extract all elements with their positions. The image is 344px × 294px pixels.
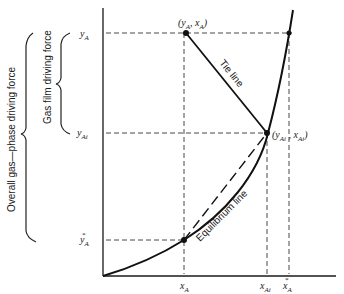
curve-yA-point bbox=[287, 31, 292, 36]
y-label-yA-star: yA* bbox=[79, 231, 89, 248]
horizontal-guides bbox=[106, 33, 292, 240]
x-label-xA: xA bbox=[179, 280, 189, 294]
bulk-point-label: (yA, xA) bbox=[178, 17, 208, 31]
overall-label: Overall gas—phase driving force bbox=[6, 66, 17, 212]
equilibrium-point bbox=[181, 237, 187, 243]
interface-point bbox=[264, 130, 270, 136]
x-label-xA-star: xA* bbox=[282, 276, 292, 294]
x-label-xAi: xAi bbox=[259, 280, 271, 294]
y-label-yAi: yAi bbox=[76, 127, 88, 141]
interface-point-label: (yAi , xAi) bbox=[272, 129, 308, 143]
y-label-yA: yA bbox=[79, 28, 89, 42]
overall-brace bbox=[21, 33, 36, 242]
equilibrium-line-label: Equilibrium line bbox=[194, 187, 250, 243]
tie-line bbox=[186, 33, 267, 133]
driving-force-diagram: yA yAi yA* xA xAi xA* (yA, xA) (yAi , xA… bbox=[0, 0, 344, 294]
gas-film-brace bbox=[56, 33, 70, 134]
gas-film-label: Gas film driving force bbox=[42, 30, 53, 124]
chord-line bbox=[184, 133, 267, 240]
tie-line-label: Tie line bbox=[217, 57, 246, 89]
